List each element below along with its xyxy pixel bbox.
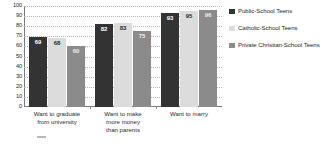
x-axis-tick-mark: [156, 106, 157, 109]
legend-swatch-icon: [229, 26, 235, 32]
y-axis-tick-labels: 1009080706050403020100: [0, 6, 22, 107]
legend-swatch-icon: [229, 9, 235, 15]
bar-value-label: 82: [95, 26, 113, 32]
y-axis-tick-label: 70: [0, 33, 22, 39]
bar: 95: [180, 11, 198, 107]
y-axis-tick-label: 0: [0, 104, 22, 110]
category-label-line: Want to graduate: [34, 110, 81, 117]
category-label-line: Want to make: [104, 110, 141, 117]
y-axis-tick-label: 50: [0, 54, 22, 60]
category-label-line: than parents: [106, 126, 140, 133]
y-axis-tick-label: 30: [0, 74, 22, 80]
x-axis-category-labels: Want to graduatefrom universityWant to m…: [24, 110, 222, 142]
legend-label: Public-School Teens: [238, 8, 292, 15]
footer-mark: [37, 136, 46, 138]
bar: 75: [133, 31, 151, 107]
y-axis-tick-label: 80: [0, 23, 22, 29]
y-axis-tick-label: 100: [0, 3, 22, 9]
category-label-line: more money: [106, 118, 140, 125]
y-axis-tick-label: 10: [0, 94, 22, 100]
legend-label: Private Christian-School Teens: [238, 42, 320, 49]
y-axis-tick-label: 60: [0, 43, 22, 49]
bar: 93: [161, 13, 179, 107]
bar: 82: [95, 24, 113, 107]
bar: 60: [67, 46, 85, 107]
y-axis-tick-label: 90: [0, 13, 22, 19]
category-label-line: from university: [37, 118, 77, 125]
x-axis-tick-mark: [90, 106, 91, 109]
bar-value-label: 69: [29, 39, 47, 45]
plot-area: 696860828375939596: [24, 6, 222, 107]
bar-value-label: 96: [199, 12, 217, 18]
bar: 68: [48, 38, 66, 107]
bar-value-label: 68: [48, 40, 66, 46]
bar-group: 828375: [90, 6, 156, 107]
bar-group: 939596: [156, 6, 222, 107]
y-axis-tick-label: 20: [0, 84, 22, 90]
x-axis-category-label: Want to marry: [150, 110, 228, 118]
category-label-line: Want to marry: [170, 110, 208, 117]
bar: 96: [199, 10, 217, 107]
legend-item: Public-School Teens: [229, 8, 329, 15]
bar-value-label: 93: [161, 15, 179, 21]
y-axis-tick-label: 40: [0, 64, 22, 70]
bar-groups: 696860828375939596: [24, 6, 222, 107]
bar-value-label: 60: [67, 48, 85, 54]
bar-value-label: 83: [114, 25, 132, 31]
bar: 83: [114, 23, 132, 107]
bar-value-label: 75: [133, 33, 151, 39]
legend-item: Private Christian-School Teens: [229, 42, 329, 49]
bar-chart: 1009080706050403020100 69686082837593959…: [0, 0, 331, 144]
bar: 69: [29, 37, 47, 107]
legend-item: Catholic-School Teens: [229, 25, 329, 32]
chart-legend: Public-School TeensCatholic-School Teens…: [229, 8, 329, 59]
bar-group: 696860: [24, 6, 90, 107]
legend-swatch-icon: [229, 43, 235, 49]
legend-label: Catholic-School Teens: [238, 25, 297, 32]
bar-value-label: 95: [180, 13, 198, 19]
